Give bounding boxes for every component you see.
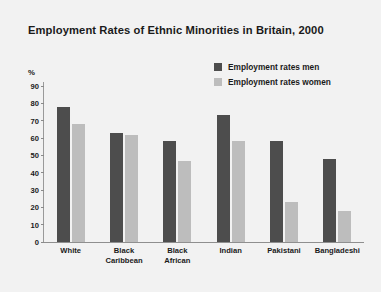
bar [285, 202, 298, 242]
legend-swatch-men [214, 63, 222, 71]
y-axis-unit-label: % [28, 68, 35, 77]
bar-group [44, 86, 97, 242]
bar [178, 161, 191, 242]
x-axis-label: Indian [204, 246, 257, 266]
bar-group [204, 86, 257, 242]
bar [125, 135, 138, 242]
chart-title: Employment Rates of Ethnic Minorities in… [28, 24, 324, 36]
bar [232, 141, 245, 242]
bar [110, 133, 123, 242]
bar [323, 159, 336, 242]
bar [163, 141, 176, 242]
y-axis-tick: 70 [31, 116, 44, 125]
y-axis-tick: 80 [31, 99, 44, 108]
legend-swatch-women [214, 78, 222, 86]
bar [338, 211, 351, 242]
y-axis-tick: 40 [31, 168, 44, 177]
legend-item-men: Employment rates men [214, 62, 331, 72]
x-axis-labels: WhiteBlackCaribbeanBlackAfricanIndianPak… [44, 246, 364, 266]
y-axis-tick: 30 [31, 186, 44, 195]
x-axis-label: Bangladeshi [311, 246, 364, 266]
y-axis-tick: 10 [31, 220, 44, 229]
chart-legend: Employment rates men Employment rates wo… [214, 62, 331, 87]
x-axis-label: White [44, 246, 97, 266]
y-axis-tick: 50 [31, 151, 44, 160]
x-axis-label: BlackAfrican [151, 246, 204, 266]
x-axis-label: Pakistani [257, 246, 310, 266]
y-axis-tick: 90 [31, 82, 44, 91]
bar-group [97, 86, 150, 242]
bar-group [311, 86, 364, 242]
legend-label-men: Employment rates men [228, 62, 319, 72]
y-axis-tick: 0 [35, 238, 44, 247]
bar [72, 124, 85, 242]
bar-group [151, 86, 204, 242]
chart-figure: Employment Rates of Ethnic Minorities in… [0, 0, 381, 292]
bar [57, 107, 70, 242]
bar [270, 141, 283, 242]
bar-group [257, 86, 310, 242]
bar-series-container [44, 86, 364, 242]
plot-area: 0102030405060708090 [44, 86, 364, 242]
x-axis-label: BlackCaribbean [97, 246, 150, 266]
y-axis-tick: 20 [31, 203, 44, 212]
bar [217, 115, 230, 242]
y-axis-tick: 60 [31, 134, 44, 143]
